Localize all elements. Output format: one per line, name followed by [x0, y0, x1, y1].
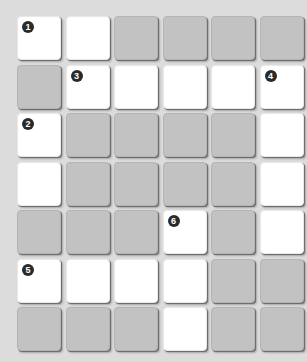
grid-cell-blocked: [260, 307, 304, 351]
grid-cell-blocked: [66, 307, 110, 351]
grid-cell-blocked: [66, 162, 110, 206]
grid-cell-open[interactable]: 4: [260, 65, 304, 109]
grid-cell-blocked: [163, 16, 207, 60]
crossword-grid: 134265: [17, 16, 304, 351]
clue-number-badge: 4: [265, 70, 277, 82]
grid-cell-blocked: [17, 210, 61, 254]
grid-cell-open[interactable]: [260, 210, 304, 254]
grid-cell-open[interactable]: [163, 259, 207, 303]
grid-cell-blocked: [17, 307, 61, 351]
grid-cell-blocked: [66, 113, 110, 157]
grid-cell-blocked: [17, 65, 61, 109]
grid-cell-blocked: [211, 210, 255, 254]
grid-cell-blocked: [211, 16, 255, 60]
grid-cell-open[interactable]: [163, 65, 207, 109]
grid-cell-blocked: [163, 162, 207, 206]
grid-cell-open[interactable]: [260, 113, 304, 157]
clue-number-badge: 2: [22, 118, 34, 130]
grid-cell-open[interactable]: [114, 65, 158, 109]
grid-cell-blocked: [260, 16, 304, 60]
grid-cell-blocked: [211, 162, 255, 206]
grid-cell-blocked: [114, 210, 158, 254]
grid-cell-blocked: [114, 113, 158, 157]
grid-cell-open[interactable]: 5: [17, 259, 61, 303]
grid-cell-open[interactable]: [211, 65, 255, 109]
grid-cell-open[interactable]: [260, 162, 304, 206]
grid-cell-blocked: [211, 307, 255, 351]
clue-number-badge: 3: [71, 70, 83, 82]
grid-cell-open[interactable]: [66, 259, 110, 303]
grid-cell-open[interactable]: [114, 259, 158, 303]
grid-cell-open[interactable]: 6: [163, 210, 207, 254]
grid-cell-blocked: [211, 259, 255, 303]
grid-cell-blocked: [114, 307, 158, 351]
grid-cell-blocked: [114, 162, 158, 206]
clue-number-badge: 6: [168, 215, 180, 227]
grid-cell-open[interactable]: [66, 16, 110, 60]
grid-cell-blocked: [211, 113, 255, 157]
grid-cell-blocked: [66, 210, 110, 254]
grid-cell-open[interactable]: [163, 307, 207, 351]
grid-cell-open[interactable]: 1: [17, 16, 61, 60]
clue-number-badge: 1: [22, 21, 34, 33]
grid-cell-blocked: [163, 113, 207, 157]
grid-cell-blocked: [114, 16, 158, 60]
grid-cell-open[interactable]: 2: [17, 113, 61, 157]
clue-number-badge: 5: [22, 264, 34, 276]
grid-cell-open[interactable]: 3: [66, 65, 110, 109]
grid-cell-open[interactable]: [17, 162, 61, 206]
grid-cell-blocked: [260, 259, 304, 303]
